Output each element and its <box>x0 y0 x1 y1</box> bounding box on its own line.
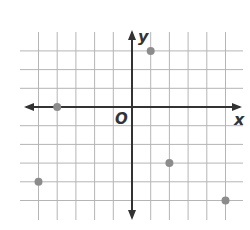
plotted-point <box>147 47 155 55</box>
plotted-point <box>35 178 43 186</box>
x-axis-label: x <box>233 110 245 129</box>
y-axis-down-arrow-icon <box>128 210 136 220</box>
x-axis-left-arrow-icon <box>24 103 34 111</box>
plotted-point <box>222 197 230 205</box>
plotted-point <box>165 159 173 167</box>
y-axis-label: y <box>138 27 149 46</box>
origin-label: O <box>115 110 128 128</box>
coordinate-plane: x y O <box>0 0 250 230</box>
plotted-point <box>53 103 61 111</box>
y-axis-up-arrow-icon <box>128 30 136 40</box>
